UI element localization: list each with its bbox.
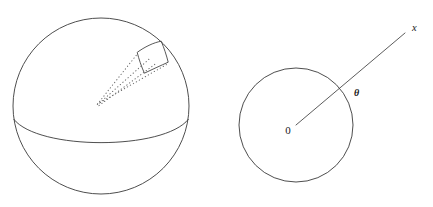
origin-label: 0 xyxy=(285,124,291,136)
x-label: x xyxy=(411,22,417,33)
geometry-figure: 0 θ x xyxy=(0,0,433,207)
angle-ray xyxy=(296,33,405,125)
sphere-panel xyxy=(13,18,189,194)
surface-patch xyxy=(137,41,168,73)
solid-angle-ray-inner xyxy=(99,63,157,106)
solid-angle-ray-lower xyxy=(97,65,166,105)
solid-angle-ray-middle xyxy=(100,57,151,103)
figure-canvas: 0 θ x xyxy=(0,0,433,207)
equator-arc xyxy=(14,119,189,143)
theta-label: θ xyxy=(354,87,360,98)
circle-panel: 0 θ x xyxy=(239,22,417,182)
solid-angle-ray-upper xyxy=(97,54,137,105)
